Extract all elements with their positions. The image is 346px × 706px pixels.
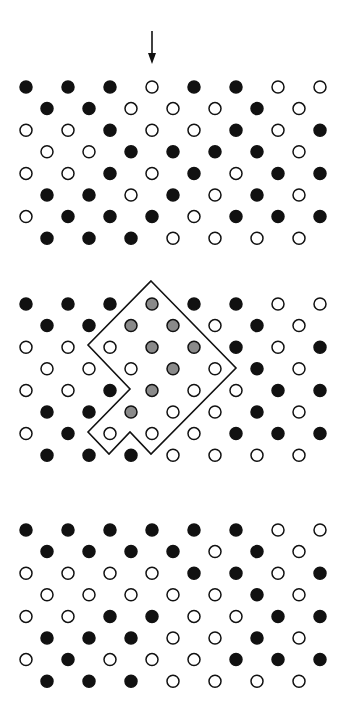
empty-dot	[272, 298, 284, 310]
filled-dot	[62, 428, 74, 440]
filled-dot	[167, 146, 179, 158]
filled-dot	[20, 81, 32, 93]
filled-dot	[104, 524, 116, 536]
empty-dot	[83, 363, 95, 375]
empty-dot	[125, 103, 137, 115]
empty-dot	[188, 124, 200, 136]
empty-dot	[146, 654, 158, 666]
empty-dot	[272, 81, 284, 93]
empty-dot	[20, 341, 32, 353]
filled-dot	[125, 632, 137, 644]
filled-dot	[230, 567, 242, 579]
empty-dot	[251, 232, 263, 244]
filled-dot	[314, 384, 326, 396]
filled-dot	[125, 675, 137, 687]
filled-dot	[251, 320, 263, 332]
filled-dot	[188, 81, 200, 93]
filled-dot	[272, 610, 284, 622]
filled-dot	[104, 298, 116, 310]
empty-dot	[209, 320, 221, 332]
empty-dot	[20, 384, 32, 396]
filled-dot	[230, 654, 242, 666]
highlighted-dot	[146, 341, 158, 353]
empty-dot	[41, 363, 53, 375]
empty-dot	[188, 654, 200, 666]
empty-dot	[209, 232, 221, 244]
empty-dot	[146, 124, 158, 136]
empty-dot	[20, 654, 32, 666]
filled-dot	[83, 320, 95, 332]
filled-dot	[104, 610, 116, 622]
empty-dot	[314, 81, 326, 93]
empty-dot	[20, 428, 32, 440]
empty-dot	[272, 341, 284, 353]
filled-dot	[20, 524, 32, 536]
filled-dot	[230, 428, 242, 440]
empty-dot	[293, 146, 305, 158]
empty-dot	[167, 675, 179, 687]
empty-dot	[230, 610, 242, 622]
empty-dot	[314, 524, 326, 536]
filled-dot	[41, 406, 53, 418]
highlighted-dot	[125, 406, 137, 418]
filled-dot	[41, 103, 53, 115]
filled-dot	[230, 524, 242, 536]
empty-dot	[20, 211, 32, 223]
down-arrow-icon	[148, 31, 156, 64]
panel-top-lattice	[20, 81, 326, 244]
empty-dot	[209, 363, 221, 375]
empty-dot	[293, 363, 305, 375]
empty-dot	[188, 428, 200, 440]
empty-dot	[125, 589, 137, 601]
empty-dot	[314, 298, 326, 310]
filled-dot	[251, 632, 263, 644]
empty-dot	[62, 341, 74, 353]
empty-dot	[209, 103, 221, 115]
empty-dot	[272, 124, 284, 136]
filled-dot	[62, 81, 74, 93]
dot-lattice-diagram	[0, 0, 346, 706]
empty-dot	[209, 406, 221, 418]
filled-dot	[251, 189, 263, 201]
filled-dot	[314, 428, 326, 440]
empty-dot	[62, 167, 74, 179]
panel-middle-lattice	[20, 281, 326, 461]
filled-dot	[41, 546, 53, 558]
empty-dot	[293, 189, 305, 201]
filled-dot	[188, 167, 200, 179]
highlighted-dot	[167, 363, 179, 375]
filled-dot	[83, 189, 95, 201]
empty-dot	[41, 589, 53, 601]
empty-dot	[167, 449, 179, 461]
empty-dot	[272, 524, 284, 536]
empty-dot	[293, 546, 305, 558]
filled-dot	[272, 211, 284, 223]
filled-dot	[41, 232, 53, 244]
filled-dot	[314, 124, 326, 136]
empty-dot	[188, 384, 200, 396]
empty-dot	[230, 384, 242, 396]
empty-dot	[167, 103, 179, 115]
filled-dot	[314, 211, 326, 223]
empty-dot	[209, 589, 221, 601]
filled-dot	[104, 81, 116, 93]
filled-dot	[230, 81, 242, 93]
filled-dot	[314, 610, 326, 622]
empty-dot	[20, 567, 32, 579]
filled-dot	[104, 211, 116, 223]
empty-dot	[83, 589, 95, 601]
highlighted-dot	[146, 384, 158, 396]
filled-dot	[230, 211, 242, 223]
highlighted-dot	[146, 298, 158, 310]
empty-dot	[293, 449, 305, 461]
filled-dot	[41, 675, 53, 687]
filled-dot	[83, 449, 95, 461]
filled-dot	[62, 211, 74, 223]
empty-dot	[293, 232, 305, 244]
filled-dot	[272, 384, 284, 396]
filled-dot	[104, 167, 116, 179]
filled-dot	[251, 103, 263, 115]
filled-dot	[62, 654, 74, 666]
filled-dot	[209, 146, 221, 158]
empty-dot	[251, 449, 263, 461]
